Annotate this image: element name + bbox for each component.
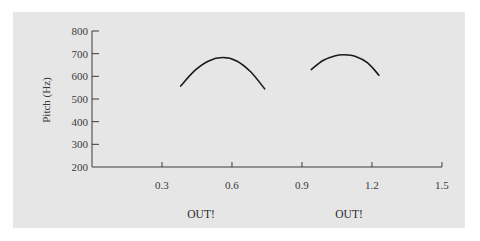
y-tick-label: 500 <box>72 93 89 105</box>
word-label-1: OUT! <box>187 208 214 220</box>
x-tick-label: 0.3 <box>155 179 169 191</box>
axes: 2003004005006007008000.30.60.91.21.5 <box>72 25 450 191</box>
y-tick-label: 700 <box>72 48 89 60</box>
y-tick-label: 400 <box>72 116 89 128</box>
pitch-contour-1 <box>181 58 265 89</box>
pitch-contour-2 <box>311 55 379 75</box>
x-tick-label: 0.9 <box>295 179 309 191</box>
x-tick-label: 1.2 <box>365 179 379 191</box>
y-axis-title: Pitch (Hz) <box>40 77 53 123</box>
word-label-2: OUT! <box>335 208 362 220</box>
y-tick-label: 800 <box>72 25 89 37</box>
x-tick-label: 0.6 <box>225 179 239 191</box>
x-tick-label: 1.5 <box>435 179 449 191</box>
pitch-curves <box>181 55 379 89</box>
y-tick-label: 300 <box>72 138 89 150</box>
y-tick-label: 600 <box>72 70 89 82</box>
y-tick-label: 200 <box>72 161 89 173</box>
pitch-chart: 2003004005006007008000.30.60.91.21.5 Pit… <box>0 0 480 241</box>
